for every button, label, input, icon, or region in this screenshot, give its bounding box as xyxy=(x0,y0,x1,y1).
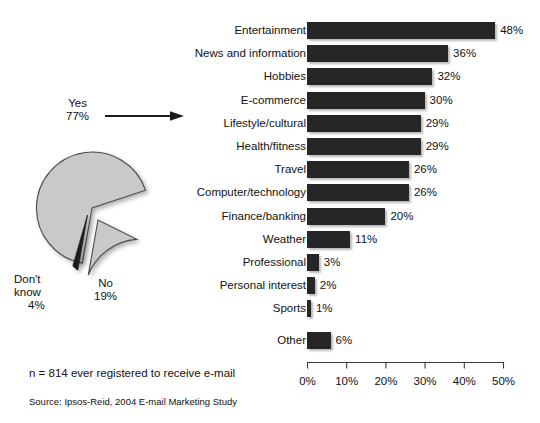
bar-category-label: Sports xyxy=(273,300,306,317)
pie-label-yes-text: Yes xyxy=(66,97,89,110)
x-axis-tick-label: 20% xyxy=(374,374,397,388)
bar-track: 30% xyxy=(307,92,534,109)
source-note: Source: Ipsos-Reid, 2004 E-mail Marketin… xyxy=(29,396,237,407)
bar-row: Weather11% xyxy=(186,231,534,248)
bar-fill[interactable] xyxy=(307,92,425,109)
arrow-icon xyxy=(104,109,190,123)
bar-row: Other6% xyxy=(186,332,534,349)
x-axis-tick-label: 10% xyxy=(335,374,358,388)
bar-track: 36% xyxy=(307,45,534,62)
bar-row: E-commerce30% xyxy=(186,92,534,109)
bar-fill[interactable] xyxy=(307,22,495,39)
bar-row: Lifestyle/cultural29% xyxy=(186,115,534,132)
bar-fill[interactable] xyxy=(307,277,315,294)
bar-row: Personal interest2% xyxy=(186,277,534,294)
bar-track: 11% xyxy=(307,231,534,248)
bar-fill[interactable] xyxy=(307,332,331,349)
pie-label-yes-value: 77% xyxy=(66,110,89,123)
bar-row: Professional3% xyxy=(186,254,534,271)
bar-track: 2% xyxy=(307,277,534,294)
pie-slice-yes xyxy=(36,152,145,263)
x-axis-tick-label: 50% xyxy=(492,374,515,388)
bar-row: Entertainment48% xyxy=(186,22,534,39)
pie-label-dont-know-line2: know xyxy=(14,286,45,299)
bar-fill[interactable] xyxy=(307,138,421,155)
pie-label-dont-know-line1: Don't xyxy=(14,273,45,286)
bar-category-label: Weather xyxy=(263,231,306,248)
email-registration-figure: Yes 77% No 19% Don't know 4% Entertainme… xyxy=(0,0,540,423)
bar-fill[interactable] xyxy=(307,208,385,225)
pie-label-dont-know: Don't know 4% xyxy=(14,273,45,312)
bar-category-label: Travel xyxy=(274,161,306,178)
bar-category-label: Lifestyle/cultural xyxy=(224,115,306,132)
pie-chart-panel: Yes 77% No 19% Don't know 4% xyxy=(8,88,198,338)
bar-value-label: 11% xyxy=(355,231,377,248)
x-axis-tick-label: 30% xyxy=(414,374,437,388)
bar-value-label: 48% xyxy=(500,22,523,39)
bar-category-label: Professional xyxy=(243,254,306,271)
x-axis-tick-labels: 0%10%20%30%40%50% xyxy=(307,374,540,390)
x-axis-tick-label: 40% xyxy=(453,374,476,388)
pie-label-dont-know-value: 4% xyxy=(14,299,45,312)
bar-value-label: 29% xyxy=(426,138,449,155)
bar-category-label: Health/fitness xyxy=(236,138,306,155)
bar-track: 26% xyxy=(307,161,534,178)
bar-track: 20% xyxy=(307,208,534,225)
pie-label-no-value: 19% xyxy=(94,290,117,303)
bar-value-label: 2% xyxy=(320,277,337,294)
bar-track: 29% xyxy=(307,115,534,132)
bar-track: 26% xyxy=(307,184,534,201)
bar-fill[interactable] xyxy=(307,115,421,132)
sample-size-note: n = 814 ever registered to receive e-mai… xyxy=(29,367,235,379)
bar-category-label: Computer/technology xyxy=(197,184,306,201)
bar-value-label: 30% xyxy=(430,92,453,109)
bar-row: News and information36% xyxy=(186,45,534,62)
bar-track: 29% xyxy=(307,138,534,155)
bar-value-label: 1% xyxy=(316,300,333,317)
bar-value-label: 6% xyxy=(336,332,353,349)
bar-value-label: 20% xyxy=(390,208,413,225)
bar-track: 48% xyxy=(307,22,534,39)
bar-value-label: 26% xyxy=(414,184,437,201)
pie-slice-no xyxy=(88,220,136,275)
bar-category-label: Hobbies xyxy=(264,68,306,85)
bar-fill[interactable] xyxy=(307,161,409,178)
x-axis-tick-label: 0% xyxy=(299,374,316,388)
bar-category-label: News and information xyxy=(195,45,306,62)
bar-row: Health/fitness29% xyxy=(186,138,534,155)
x-axis xyxy=(307,362,540,374)
pie-label-no-text: No xyxy=(94,277,117,290)
bar-row: Finance/banking20% xyxy=(186,208,534,225)
bar-track: 6% xyxy=(307,332,534,349)
bar-category-label: Other xyxy=(277,332,306,349)
bar-category-label: Finance/banking xyxy=(222,208,306,225)
bar-fill[interactable] xyxy=(307,184,409,201)
bar-row: Sports1% xyxy=(186,300,534,317)
bar-chart-panel: Entertainment48%News and information36%H… xyxy=(186,10,534,400)
bar-fill[interactable] xyxy=(307,254,319,271)
bar-value-label: 36% xyxy=(453,45,476,62)
bar-value-label: 29% xyxy=(426,115,449,132)
pie-label-yes: Yes 77% xyxy=(66,97,89,123)
bar-row: Hobbies32% xyxy=(186,68,534,85)
bar-fill[interactable] xyxy=(307,231,350,248)
bar-value-label: 3% xyxy=(324,254,341,271)
pie-label-no: No 19% xyxy=(94,277,117,303)
bar-category-label: Entertainment xyxy=(234,22,306,39)
bar-row: Travel26% xyxy=(186,161,534,178)
bar-value-label: 26% xyxy=(414,161,437,178)
bar-track: 32% xyxy=(307,68,534,85)
bar-value-label: 32% xyxy=(437,68,460,85)
bar-fill[interactable] xyxy=(307,300,311,317)
bar-category-label: E-commerce xyxy=(241,92,306,109)
bar-track: 3% xyxy=(307,254,534,271)
bar-track: 1% xyxy=(307,300,534,317)
bar-category-label: Personal interest xyxy=(220,277,306,294)
bar-row: Computer/technology26% xyxy=(186,184,534,201)
bar-fill[interactable] xyxy=(307,68,432,85)
bar-fill[interactable] xyxy=(307,45,448,62)
